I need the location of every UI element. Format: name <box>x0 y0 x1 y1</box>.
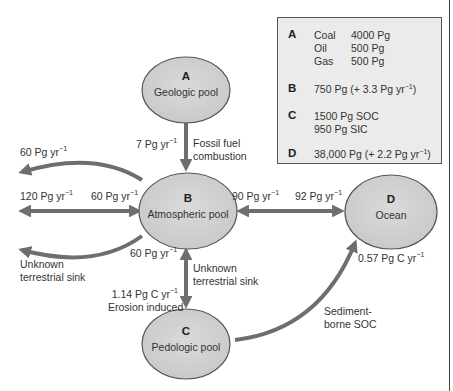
d-to-b-rate-label: 92 Pg yr−1 <box>295 190 342 203</box>
pool-b-name: Atmospheric pool <box>138 208 238 220</box>
sediment-label: Sediment-borne SOC <box>324 305 377 331</box>
legend-b-text: 750 Pg (+ 3.3 Pg yr−1) <box>314 83 416 95</box>
pool-c-letter: C <box>166 325 206 337</box>
c-to-b-rate-label: 60 Pg yr−1 <box>130 247 177 260</box>
legend-a-value-1: 500 Pg <box>351 42 384 54</box>
legend-key-b: B <box>288 82 296 94</box>
legend-a-value-0: 4000 Pg <box>351 29 390 41</box>
left-upper-rate-label: 60 Pg yr−1 <box>20 146 67 159</box>
pool-c-name: Pedologic pool <box>136 341 236 353</box>
legend-a-name-0: Coal <box>314 29 336 41</box>
legend-key-c: C <box>288 109 296 121</box>
pool-a-letter: A <box>166 70 206 82</box>
b-to-d-rate-label: 90 Pg yr−1 <box>232 190 279 203</box>
legend-a-value-2: 500 Pg <box>351 55 384 67</box>
legend-c-line2: 950 Pg SIC <box>314 123 368 135</box>
left-inner-rate-label: 60 Pg yr−1 <box>91 190 138 203</box>
ocean-rate-label: 0.57 Pg C yr−1 <box>358 252 424 265</box>
legend-a-name-1: Oil <box>314 42 327 54</box>
fossil-fuel-label: Fossil fuelcombustion <box>193 137 247 163</box>
pool-d-letter: D <box>371 193 411 205</box>
left-sink-label: Unknownterrestrial sink <box>20 258 85 284</box>
legend-d-text: 38,000 Pg (+ 2.2 Pg yr−1) <box>314 148 431 160</box>
arrow-left-upper <box>22 163 142 180</box>
arrow-left-lower <box>22 236 142 257</box>
legend-a-name-2: Gas <box>314 55 333 67</box>
pool-a-name: Geologic pool <box>136 86 236 98</box>
pool-d-name: Ocean <box>341 209 441 221</box>
left-outer-rate-label: 120 Pg yr−1 <box>20 190 73 203</box>
legend-key-a: A <box>288 28 296 40</box>
legend-key-d: D <box>288 147 296 159</box>
legend-box: A Coal 4000 Pg Oil 500 Pg Gas 500 Pg B 7… <box>277 17 442 164</box>
erosion-label: 1.14 Pg C yr−1Erosion induced <box>108 288 178 314</box>
legend-c-line1: 1500 Pg SOC <box>314 110 379 122</box>
mid-sink-label: Unknownterrestrial sink <box>193 262 258 288</box>
pool-b-letter: B <box>168 192 208 204</box>
fossil-rate-label: 7 Pg yr−1 <box>136 138 177 151</box>
